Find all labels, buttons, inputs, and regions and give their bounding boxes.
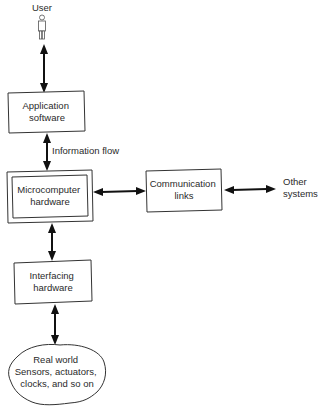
system-diagram: User Application software Information fl…: [0, 0, 326, 408]
microcomputer-hardware-node: Microcomputer hardware: [7, 170, 93, 223]
person-icon: [39, 15, 46, 39]
communication-links-node: Communication links: [146, 169, 222, 212]
real-world-node: Real world Sensors, actuators, clocks, a…: [9, 344, 106, 404]
edge-interfacing-real-world: [51, 304, 59, 345]
interfacing-hardware-node: Interfacing hardware: [14, 260, 92, 304]
other-systems-node: Other systems: [283, 176, 318, 199]
edge-user-application: [40, 44, 48, 93]
other-systems-label: Other systems: [283, 176, 318, 199]
edge-application-microcomputer: Information flow: [43, 133, 119, 171]
edge-communication-other-systems: [224, 185, 276, 194]
edge-microcomputer-communication: [93, 187, 146, 196]
application-software-node: Application software: [8, 91, 85, 133]
edge-microcomputer-interfacing: [48, 223, 56, 261]
user-label: User: [32, 2, 52, 13]
information-flow-label: Information flow: [52, 145, 119, 156]
interfacing-hardware-label: Interfacing hardware: [29, 270, 76, 293]
user-node: User: [32, 2, 52, 39]
application-software-label: Application software: [22, 100, 71, 123]
